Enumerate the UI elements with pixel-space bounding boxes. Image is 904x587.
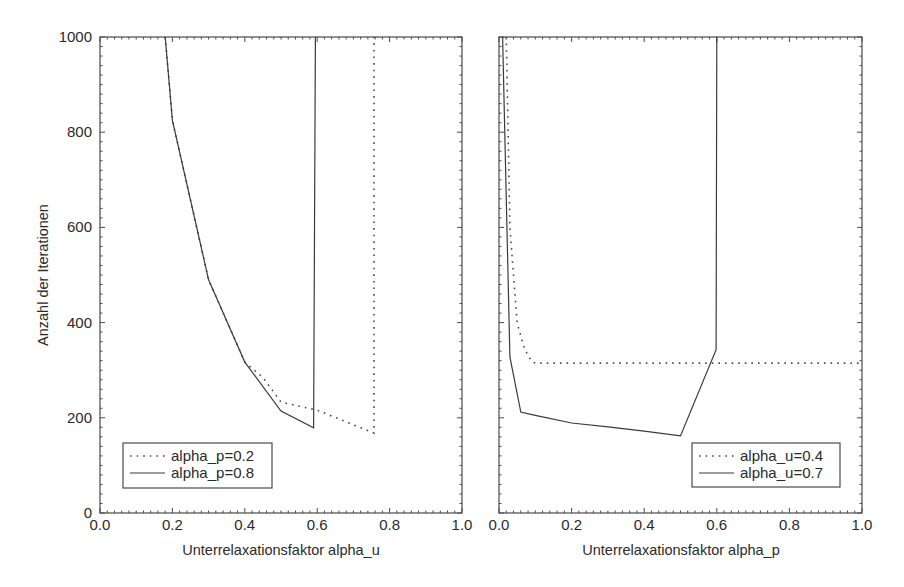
plot-frame [100, 37, 462, 513]
legend-label: alpha_u=0.7 [740, 464, 823, 481]
x-tick-label: 0.8 [779, 516, 800, 533]
series-line-dotted [165, 37, 374, 433]
legend-label: alpha_p=0.2 [171, 447, 254, 464]
x-tick-label: 0.6 [307, 516, 328, 533]
y-tick-label: 200 [67, 409, 92, 426]
y-axis-title: Anzahl der Iterationen [35, 204, 51, 346]
y-tick-label: 600 [67, 218, 92, 235]
x-tick-label: 0.4 [634, 516, 655, 533]
legend-label: alpha_p=0.8 [171, 464, 254, 481]
chart-canvas: 0.00.20.40.60.81.002004006008001000alpha… [0, 0, 904, 587]
right-x-axis-title: Unterrelaxationsfaktor alpha_p [582, 542, 779, 558]
figure: 0.00.20.40.60.81.002004006008001000alpha… [0, 0, 904, 587]
right-plot-panel: 0.00.20.40.60.81.0alpha_u=0.4alpha_u=0.7 [489, 37, 873, 533]
y-tick-label: 0 [84, 504, 92, 521]
y-tick-label: 1000 [59, 28, 92, 45]
x-tick-label: 0.6 [706, 516, 727, 533]
legend: alpha_u=0.4alpha_u=0.7 [692, 443, 840, 487]
plot-frame [499, 37, 862, 513]
y-tick-label: 800 [67, 123, 92, 140]
x-tick-label: 1.0 [452, 516, 473, 533]
y-tick-label: 400 [67, 314, 92, 331]
x-tick-label: 0.2 [162, 516, 183, 533]
x-tick-label: 0.2 [561, 516, 582, 533]
x-tick-label: 0.0 [489, 516, 510, 533]
left-plot-panel: 0.00.20.40.60.81.002004006008001000alpha… [59, 28, 473, 533]
series-line-solid [165, 37, 315, 428]
left-x-axis-title: Unterrelaxationsfaktor alpha_u [182, 542, 379, 558]
x-tick-label: 0.8 [379, 516, 400, 533]
x-tick-label: 0.4 [234, 516, 255, 533]
x-tick-label: 1.0 [852, 516, 873, 533]
series-line-dotted [506, 37, 862, 363]
series-line-solid [503, 37, 717, 436]
legend: alpha_p=0.2alpha_p=0.8 [123, 443, 272, 488]
legend-label: alpha_u=0.4 [740, 447, 823, 464]
x-tick-label: 0.0 [90, 516, 111, 533]
